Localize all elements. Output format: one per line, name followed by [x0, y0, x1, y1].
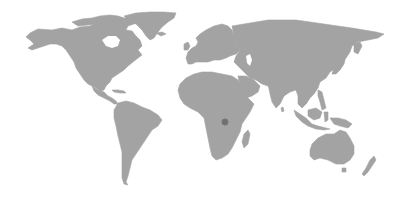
region-australia[interactable]	[310, 130, 354, 164]
region-south-america[interactable]	[114, 101, 162, 185]
region-india[interactable]	[268, 82, 288, 108]
region-sri-lanka[interactable]	[281, 107, 284, 112]
region-europe[interactable]	[186, 24, 240, 64]
land-layer	[26, 12, 384, 185]
region-borneo[interactable]	[308, 108, 322, 120]
world-map	[0, 0, 414, 199]
region-kamchatka[interactable]	[354, 42, 362, 54]
region-new-zealand[interactable]	[362, 156, 376, 176]
marker-layer	[222, 119, 228, 125]
region-central-america[interactable]	[92, 86, 118, 104]
region-tasmania[interactable]	[342, 168, 346, 172]
region-iceland[interactable]	[156, 32, 166, 36]
region-caribbean[interactable]	[112, 90, 126, 93]
region-taiwan-philippines[interactable]	[318, 90, 326, 110]
region-madagascar[interactable]	[242, 130, 250, 148]
region-british-isles[interactable]	[184, 42, 190, 50]
region-indochina[interactable]	[294, 84, 310, 108]
region-sakhalin[interactable]	[340, 46, 344, 56]
region-sulawesi[interactable]	[324, 112, 328, 122]
region-north-america[interactable]	[26, 17, 142, 91]
region-new-guinea[interactable]	[330, 118, 352, 128]
map-marker-central-africa-marker[interactable]	[222, 119, 228, 125]
world-map-canvas[interactable]	[0, 0, 414, 199]
